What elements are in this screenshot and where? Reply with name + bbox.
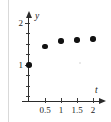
scan-speckle bbox=[79, 62, 81, 64]
x-axis-arrow-icon bbox=[99, 98, 106, 104]
x-tick-1 bbox=[61, 98, 62, 104]
x-tick-1.5 bbox=[77, 98, 78, 104]
x-tick-label-2: 2 bbox=[88, 106, 98, 115]
y-tick-label-1: 1 bbox=[12, 61, 23, 70]
x-tick-2 bbox=[93, 98, 94, 104]
x-axis-label: t bbox=[95, 86, 98, 95]
y-minor-tick-1.5 bbox=[26, 44, 30, 45]
x-tick-label-1.5: 1.5 bbox=[70, 106, 84, 115]
y-minor-tick-1.75 bbox=[26, 33, 30, 34]
x-tick-label-1: 1 bbox=[56, 106, 66, 115]
data-point bbox=[90, 36, 95, 41]
x-tick-0.5 bbox=[45, 98, 46, 104]
y-minor-tick-1.25 bbox=[26, 54, 30, 55]
plot-area: y t 2 1 0.5 1 1.5 2 bbox=[0, 0, 111, 122]
y-tick-label-2: 2 bbox=[12, 19, 23, 28]
data-point bbox=[74, 37, 79, 42]
y-minor-tick-0.5 bbox=[26, 86, 30, 87]
data-point bbox=[42, 44, 47, 49]
data-point bbox=[58, 38, 63, 43]
y-axis-arrow-icon bbox=[26, 11, 32, 18]
y-minor-tick-0.25 bbox=[26, 96, 30, 97]
y-axis-line bbox=[28, 18, 29, 102]
x-tick-label-0.5: 0.5 bbox=[38, 106, 52, 115]
y-tick-2 bbox=[25, 23, 30, 24]
scatter-plot-figure: y t 2 1 0.5 1 1.5 2 bbox=[0, 0, 111, 122]
data-point bbox=[26, 62, 31, 67]
y-minor-tick-0.75 bbox=[26, 75, 30, 76]
y-axis-label: y bbox=[35, 12, 39, 21]
